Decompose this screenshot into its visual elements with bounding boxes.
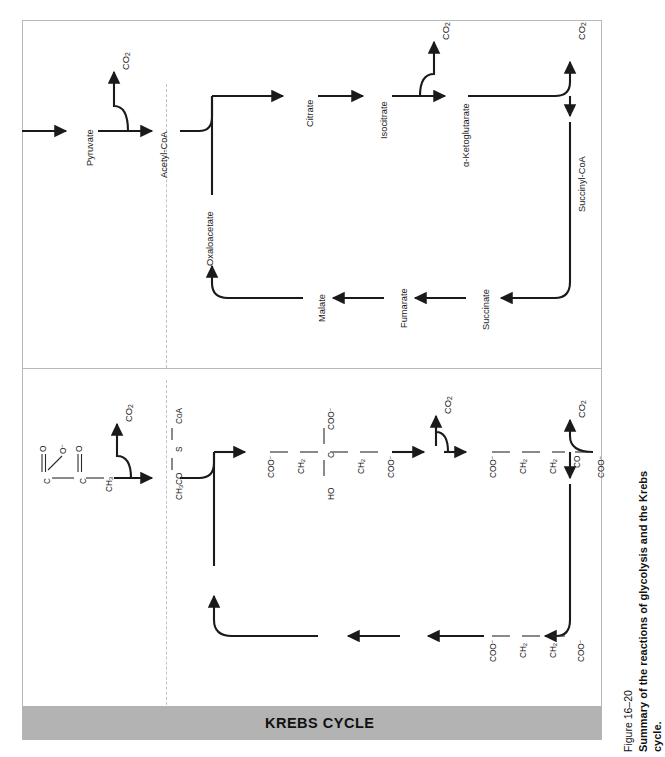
akg-coo-left: COO−: [490, 456, 499, 478]
label-fumarate: Fumarate: [400, 288, 409, 328]
citrate-coo-up: COO−: [328, 408, 337, 430]
label-succinate: Succinate: [482, 289, 491, 330]
acetyl-coa-formula-sulfur: S: [176, 447, 184, 452]
figure-caption: Figure 16–20 Summary of the reactions of…: [622, 471, 665, 752]
label-succinyl-coa: Succinyl-CoA: [578, 156, 587, 212]
akg-co: CO: [574, 456, 582, 468]
label-malate: Malate: [318, 294, 327, 322]
akg-ch2-a: CH2: [520, 459, 529, 474]
label-co2-alphakg-structure: CO2: [578, 400, 588, 418]
label-acetyl-coa: Acetyl-CoA: [160, 132, 169, 179]
pyruvate-atom-c1: C: [44, 478, 52, 484]
akg-coo-right: COO−: [598, 456, 607, 478]
pyruvate-group-ch3: CH3: [106, 477, 115, 492]
label-isocitrate: Isocitrate: [380, 101, 389, 139]
pyruvate-atom-o1: O: [40, 446, 48, 452]
acetyl-coa-formula-coa: CoA: [176, 408, 184, 424]
succinate-ch2-b: CH2: [550, 643, 559, 658]
pyruvate-atom-o-minus: O−: [60, 444, 69, 454]
pyruvate-atom-c2: C: [80, 478, 88, 484]
citrate-central-c: C: [328, 452, 336, 458]
figure-caption-line2: cycle.: [650, 471, 665, 752]
citrate-coo-left: COO−: [268, 456, 277, 478]
akg-ch2-b: CH2: [550, 459, 559, 474]
label-oxaloacetate: Oxaloacetate: [206, 211, 215, 266]
citrate-ho: HO: [328, 488, 336, 500]
label-co2-pyruvate: CO2: [122, 52, 132, 70]
figure-caption-line1: Summary of the reactions of glycolysis a…: [636, 471, 651, 752]
citrate-ch2-right: CH2: [358, 459, 367, 474]
succinate-coo-left: COO−: [490, 640, 499, 662]
citrate-ch2-left: CH2: [298, 459, 307, 474]
label-co2-isocitrate-structure: CO2: [444, 396, 454, 414]
label-alpha-ketoglutarate: α-Ketoglutarate: [462, 103, 471, 167]
citrate-coo-right: COO−: [388, 456, 397, 478]
label-pyruvate: Pyruvate: [86, 129, 95, 166]
succinate-ch2-a: CH2: [520, 643, 529, 658]
succinate-coo-right: COO−: [578, 640, 587, 662]
label-co2-alphakg: CO2: [578, 22, 588, 40]
pyruvate-atom-o2: O: [76, 446, 84, 452]
figure-number: Figure 16–20: [622, 471, 636, 752]
label-co2-isocitrate: CO2: [442, 22, 452, 40]
acetyl-coa-formula-acyl: CH3CO: [176, 473, 185, 500]
label-citrate: Citrate: [306, 100, 315, 127]
label-co2-pyruvate-structure: CO2: [125, 404, 135, 422]
